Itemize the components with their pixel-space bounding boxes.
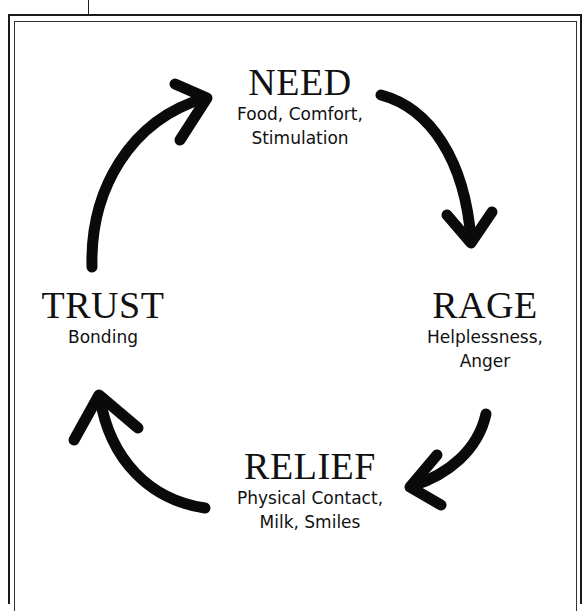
arrow-relief-to-trust-icon [74, 395, 205, 508]
arrow-need-to-rage-icon [381, 95, 492, 243]
arrow-trust-to-need-icon [92, 84, 207, 267]
arrow-rage-to-relief-icon [410, 414, 486, 505]
